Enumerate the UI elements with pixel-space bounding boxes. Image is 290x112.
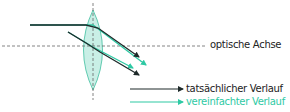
lower-ray-actual: [68, 32, 139, 75]
legend-actual-label: tatsächlicher Verlauf: [186, 83, 283, 95]
legend-simplified-label: vereinfachter Verlauf: [186, 96, 285, 108]
optical-axis-label: optische Achse: [210, 39, 281, 51]
